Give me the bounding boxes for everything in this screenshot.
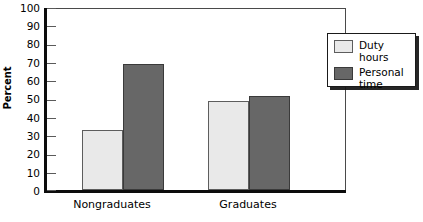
y-tick-10 — [47, 173, 56, 174]
y-tick-50 — [47, 100, 56, 101]
bar-nongraduates-personal-time — [123, 64, 164, 190]
bar-nongraduates-duty-hours — [82, 130, 123, 190]
x-category-label-nongraduates: Nongraduates — [62, 198, 162, 211]
y-tick-label-100: 100 — [14, 3, 40, 14]
legend-item-duty-hours: Duty hours — [334, 39, 415, 63]
legend-swatch-personal-time — [334, 67, 353, 80]
y-tick-40 — [47, 118, 56, 119]
bar-chart-figure: Percent 100 90 80 70 60 50 40 30 20 10 0… — [0, 0, 423, 222]
plot-frame-top — [44, 8, 346, 9]
y-tick-30 — [47, 136, 56, 137]
y-tick-60 — [47, 81, 56, 82]
legend-item-personal-time: Personal time — [334, 66, 415, 90]
y-tick-70 — [47, 63, 56, 64]
y-tick-label-30: 30 — [14, 131, 40, 142]
y-tick-label-80: 80 — [14, 39, 40, 50]
y-tick-90 — [47, 26, 56, 27]
y-tick-label-0: 0 — [14, 186, 40, 197]
y-tick-label-10: 10 — [14, 168, 40, 179]
chart-legend: Duty hours Personal time — [327, 33, 416, 87]
legend-label-personal-time: Personal time — [359, 66, 415, 90]
legend-swatch-duty-hours — [334, 40, 353, 53]
y-tick-label-70: 70 — [14, 58, 40, 69]
y-tick-80 — [47, 45, 56, 46]
y-tick-100 — [47, 8, 56, 9]
bar-graduates-duty-hours — [208, 101, 249, 190]
plot-area — [44, 8, 346, 193]
legend-label-duty-hours: Duty hours — [359, 39, 415, 63]
y-tick-label-90: 90 — [14, 21, 40, 32]
y-tick-0 — [47, 190, 56, 191]
y-tick-label-60: 60 — [14, 76, 40, 87]
bar-graduates-personal-time — [249, 96, 290, 190]
y-tick-label-50: 50 — [14, 94, 40, 105]
y-tick-20 — [47, 155, 56, 156]
y-tick-label-20: 20 — [14, 149, 40, 160]
y-tick-label-40: 40 — [14, 113, 40, 124]
x-axis-line — [44, 190, 346, 193]
x-category-label-graduates: Graduates — [198, 198, 298, 211]
